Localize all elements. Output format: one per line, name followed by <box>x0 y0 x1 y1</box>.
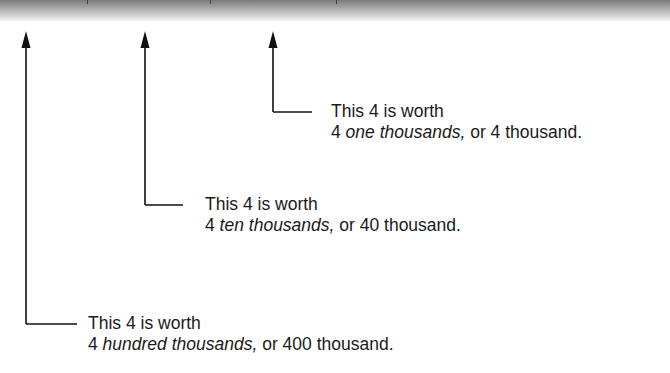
callout-line1: This 4 is worth <box>205 194 461 215</box>
callout-line2: 4 hundred thousands, or 400 thousand. <box>88 334 394 355</box>
callout-ten-thousands: This 4 is worth 4 ten thousands, or 40 t… <box>205 194 461 236</box>
callout-line1: This 4 is worth <box>331 101 582 122</box>
arrow-hundred-thousands-icon <box>22 31 78 324</box>
arrow-thousands-icon <box>269 31 313 112</box>
callout-line1: This 4 is worth <box>88 313 394 334</box>
callout-thousands: This 4 is worth 4 one thousands, or 4 th… <box>331 101 582 143</box>
arrow-ten-thousands-icon <box>141 31 184 205</box>
callout-hundred-thousands: This 4 is worth 4 hundred thousands, or … <box>88 313 394 355</box>
callout-line2: 4 ten thousands, or 40 thousand. <box>205 215 461 236</box>
callout-line2: 4 one thousands, or 4 thousand. <box>331 122 582 143</box>
